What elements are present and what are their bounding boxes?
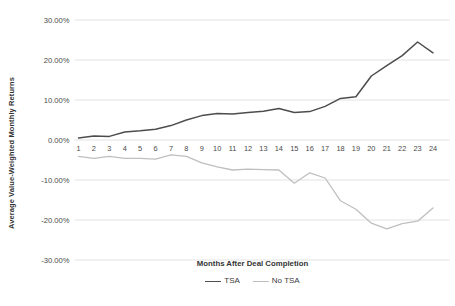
x-tick-label: 10 (213, 144, 221, 153)
chart-legend: TSANo TSA (70, 277, 435, 285)
y-tick-label: -10.00% (41, 176, 70, 185)
series-line-no-tsa (79, 155, 434, 229)
y-tick-label: 10.00% (44, 96, 70, 105)
legend-label: No TSA (272, 277, 300, 285)
x-tick-label: 5 (138, 144, 142, 153)
legend-line-swatch-icon (253, 281, 269, 282)
x-tick-label: 14 (275, 144, 283, 153)
x-tick-label: 7 (169, 144, 173, 153)
x-tick-label: 21 (383, 144, 391, 153)
legend-entry-tsa[interactable]: TSA (205, 277, 240, 285)
y-axis-tick-labels: 30.00%20.00%10.00%0.00%-10.00%-20.00%-30… (41, 16, 70, 265)
gridlines (75, 20, 451, 260)
legend-entry-no-tsa[interactable]: No TSA (253, 277, 300, 285)
x-tick-label: 13 (259, 144, 267, 153)
legend-label: TSA (224, 277, 240, 285)
y-tick-label: 20.00% (44, 56, 70, 65)
y-tick-label: -30.00% (41, 256, 70, 265)
x-tick-label: 4 (123, 144, 127, 153)
x-tick-label: 15 (290, 144, 298, 153)
y-tick-label: -20.00% (41, 216, 70, 225)
x-axis-title: Months After Deal Completion (70, 259, 435, 268)
x-tick-label: 6 (154, 144, 158, 153)
x-tick-label: 11 (229, 144, 237, 153)
x-tick-label: 8 (184, 144, 188, 153)
x-tick-label: 22 (398, 144, 406, 153)
x-axis-tick-labels: 123456789101112131415161718192021222324 (76, 144, 437, 153)
chart-figure: 30.00%20.00%10.00%0.00%-10.00%-20.00%-30… (0, 0, 455, 306)
x-tick-label: 19 (352, 144, 360, 153)
x-tick-label: 16 (306, 144, 314, 153)
x-tick-label: 2 (92, 144, 96, 153)
x-tick-label: 18 (336, 144, 344, 153)
legend-line-swatch-icon (205, 281, 221, 282)
x-tick-label: 23 (413, 144, 421, 153)
series-lines (79, 42, 434, 229)
x-tick-label: 3 (107, 144, 111, 153)
x-tick-label: 1 (76, 144, 80, 153)
x-tick-label: 9 (200, 144, 204, 153)
series-line-tsa (79, 42, 434, 138)
y-tick-label: 30.00% (44, 16, 70, 25)
x-tick-label: 17 (321, 144, 329, 153)
x-tick-label: 12 (244, 144, 252, 153)
x-tick-label: 20 (367, 144, 375, 153)
x-tick-label: 24 (429, 144, 437, 153)
y-tick-label: 0.00% (48, 136, 70, 145)
